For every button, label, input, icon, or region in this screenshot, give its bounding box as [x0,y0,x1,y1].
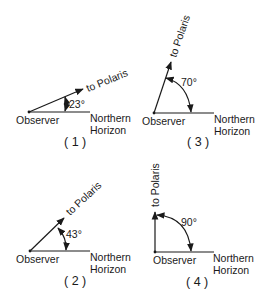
observer-label: Observer [16,114,60,126]
panel-number: ( 3 ) [187,135,209,149]
angle-label: 23° [69,98,85,110]
polaris-label: to Polaris [63,179,103,218]
panel-4: 90° to Polaris Observer Northern Horizon… [149,163,254,289]
horizon-label-line2: Horizon [214,125,250,137]
panel-2: 43° to Polaris Observer Northern Horizon… [16,179,131,288]
panel-number: ( 4 ) [186,275,208,289]
polaris-label: to Polaris [149,163,161,207]
angle-label: 43° [66,228,82,240]
panel-1: 23° to Polaris Observer Northern Horizon… [16,66,131,149]
horizon-label-line2: Horizon [213,264,249,276]
panel-number: ( 2 ) [64,274,86,288]
angle-arc [65,97,66,111]
polaris-arrow [30,218,64,251]
polaris-label: to Polaris [167,13,193,58]
angle-arc [58,228,66,250]
observer-label: Observer [16,253,60,265]
polaris-label: to Polaris [84,66,129,94]
horizon-label-line1: Northern [213,252,254,264]
horizon-label-line1: Northern [90,251,131,263]
observer-label: Observer [142,115,186,127]
horizon-label-line2: Horizon [90,124,126,136]
horizon-label-line1: Northern [90,112,131,124]
panel-3: 70° to Polaris Observer Northern Horizon… [142,13,255,149]
polaris-altitude-diagram: 23° to Polaris Observer Northern Horizon… [0,0,268,306]
horizon-label-line2: Horizon [90,263,126,275]
angle-label: 70° [181,76,197,88]
angle-label: 90° [181,216,197,228]
observer-label: Observer [153,254,197,266]
horizon-label-line1: Northern [214,113,255,125]
polaris-arrow [154,62,171,113]
panel-number: ( 1 ) [64,135,86,149]
